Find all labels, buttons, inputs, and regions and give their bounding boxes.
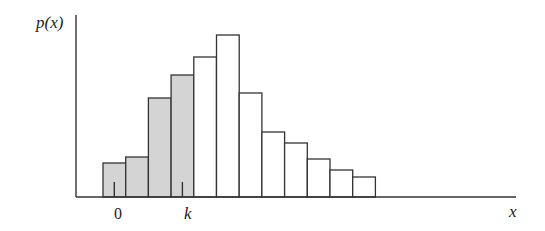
bar-shaded xyxy=(126,157,149,197)
histogram-chart: p(x) x 0 k xyxy=(0,0,545,231)
bar-shaded xyxy=(171,75,194,197)
bar xyxy=(239,93,262,197)
x-axis-label: x xyxy=(508,202,517,221)
bar xyxy=(194,57,217,197)
tick-label-k: k xyxy=(184,204,192,223)
bar xyxy=(353,177,376,197)
bar xyxy=(307,159,330,197)
bar xyxy=(285,143,308,197)
bar-shaded xyxy=(148,98,171,197)
bars-group xyxy=(103,35,375,197)
bar xyxy=(262,132,285,197)
y-axis-label: p(x) xyxy=(35,13,64,32)
bar xyxy=(330,170,353,197)
bar xyxy=(217,35,240,197)
tick-label-zero: 0 xyxy=(114,205,122,222)
